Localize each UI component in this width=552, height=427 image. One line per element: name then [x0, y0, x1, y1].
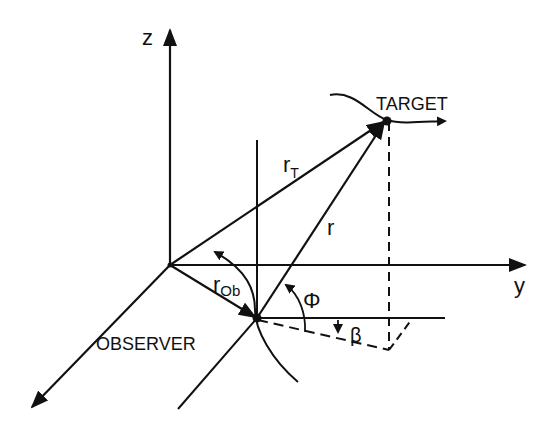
observer-x-parallel-line: [178, 318, 257, 409]
observer-label: OBSERVER: [96, 334, 196, 354]
y-axis-label: y: [514, 273, 525, 298]
projection-corner-dashed: [389, 319, 412, 350]
origin-point: [168, 263, 173, 268]
ground-projection-dashed: [258, 320, 389, 350]
azimuth-label: Φ: [303, 288, 321, 313]
target-label: TARGET: [376, 94, 448, 114]
coordinate-diagram: z y TARGET OBSERVER rT rOb r Φ β: [0, 0, 552, 427]
target-point: [383, 117, 392, 126]
elevation-label: β: [350, 324, 362, 346]
r-observer-label: rOb: [213, 272, 240, 299]
r-target-label: rT: [283, 152, 299, 181]
observer-point: [253, 314, 262, 323]
z-axis-label: z: [142, 25, 153, 50]
r-relative-label: r: [327, 215, 334, 240]
vector-r-target: [170, 122, 383, 265]
